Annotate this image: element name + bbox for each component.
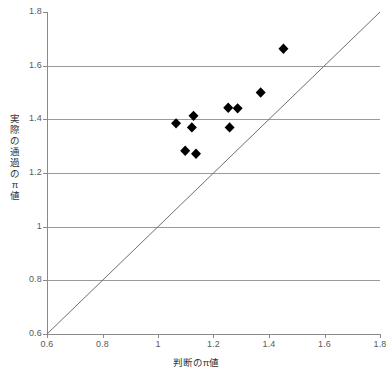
x-tick-label: 1.6 (307, 339, 343, 349)
y-axis-title-char: 通 (8, 146, 22, 157)
y-tick-label: 1.8 (6, 6, 42, 16)
x-tick-label: 0.8 (85, 339, 121, 349)
scatter-chart: 0.60.811.21.41.61.8 0.60.811.21.41.61.8 … (0, 0, 392, 374)
y-axis-title-char: の (8, 168, 22, 179)
y-tick-marks-group (43, 13, 47, 335)
x-tick-label: 1.4 (251, 339, 287, 349)
y-axis-title: 実際の通過のπ値 (8, 113, 22, 201)
x-tick-label: 1.8 (362, 339, 392, 349)
data-point-marker (225, 122, 235, 132)
x-tick-label: 0.6 (29, 339, 65, 349)
y-tick-label: 0.6 (6, 328, 42, 338)
x-tick-label: 1.2 (196, 339, 232, 349)
y-tick-label: 1.6 (6, 60, 42, 70)
y-axis-title-char: の (8, 135, 22, 146)
x-axis-title: 判断のπ値 (146, 355, 246, 369)
y-axis-title-char: 実 (8, 113, 22, 124)
x-tick-label: 1 (140, 339, 176, 349)
y-axis-title-char: 値 (8, 190, 22, 201)
data-point-marker (223, 103, 233, 113)
y-tick-label: 1 (6, 221, 42, 231)
plot-area-svg (0, 0, 392, 374)
y-axis-title-char: 際 (8, 124, 22, 135)
data-point-marker (256, 87, 266, 97)
y-tick-label: 0.8 (6, 274, 42, 284)
data-point-marker (233, 103, 243, 113)
data-point-marker (191, 148, 201, 158)
data-point-marker (180, 146, 190, 156)
y-axis-title-char: 過 (8, 157, 22, 168)
y-axis-title-char: π (8, 179, 22, 190)
data-point-marker (187, 122, 197, 132)
data-point-marker (278, 44, 288, 54)
data-points-group (171, 44, 288, 159)
